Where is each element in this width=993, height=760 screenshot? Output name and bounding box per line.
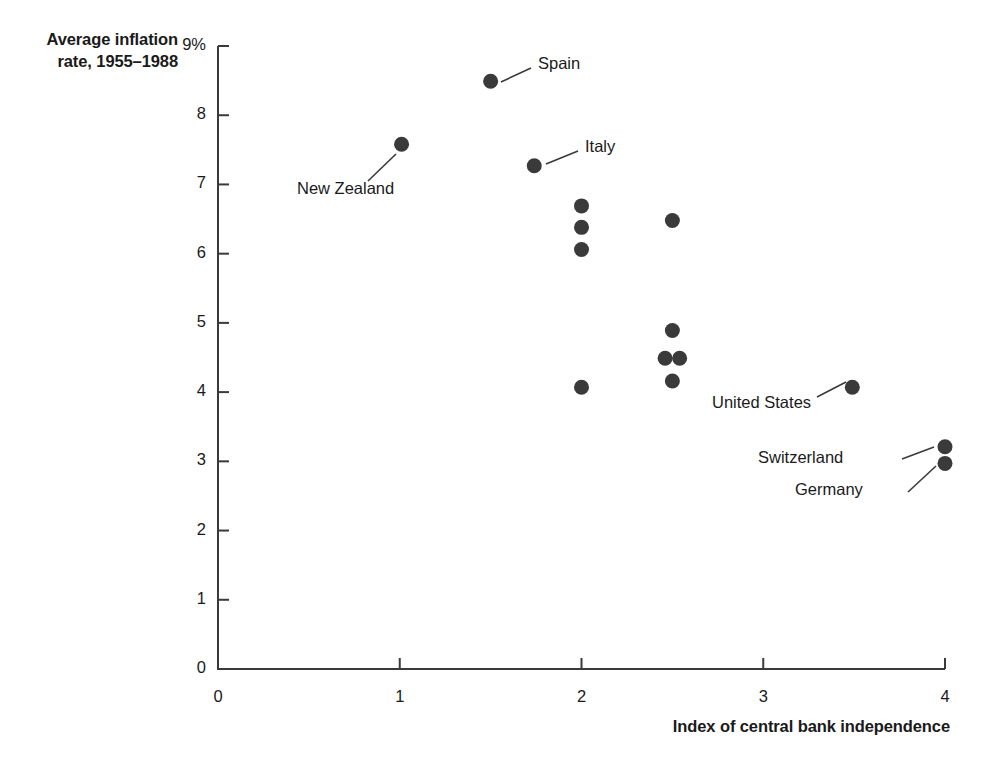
- y-tick-label: 5: [166, 312, 206, 331]
- point-label: Switzerland: [758, 448, 843, 467]
- point-label: Italy: [585, 137, 615, 156]
- y-tick-label: 9%: [166, 35, 206, 54]
- plot-area: [0, 0, 993, 760]
- point-label: United States: [712, 393, 811, 412]
- y-tick-label: 7: [166, 173, 206, 192]
- x-tick-label: 2: [567, 687, 597, 706]
- point-label: New Zealand: [297, 179, 394, 198]
- data-points: [394, 74, 952, 471]
- point-label: Spain: [538, 54, 580, 73]
- axis-lines: [218, 46, 945, 669]
- y-tick-label: 0: [166, 658, 206, 677]
- y-tick-label: 8: [166, 104, 206, 123]
- y-tick-label: 6: [166, 243, 206, 262]
- y-tick-label: 3: [166, 450, 206, 469]
- scatter-chart: Average inflation rate, 1955–1988 Index …: [0, 0, 993, 760]
- y-tick-label: 1: [166, 589, 206, 608]
- y-tick-label: 4: [166, 381, 206, 400]
- x-tick-label: 0: [203, 687, 233, 706]
- x-tick-label: 3: [748, 687, 778, 706]
- x-tick-label: 1: [385, 687, 415, 706]
- point-label: Germany: [795, 480, 863, 499]
- x-tick-label: 4: [930, 687, 960, 706]
- leader-lines: [368, 68, 936, 492]
- y-tick-label: 2: [166, 520, 206, 539]
